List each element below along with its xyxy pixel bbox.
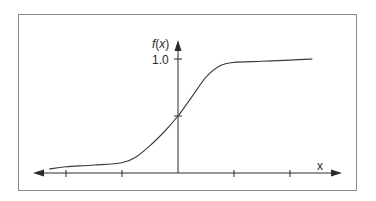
x-axis-right-arrow: [331, 170, 342, 177]
x-axis-label: x: [317, 159, 323, 173]
y-axis-label: f(x): [152, 37, 169, 51]
y-tick-label-1: 1.0: [152, 53, 169, 67]
sigmoid-curve: [49, 59, 312, 169]
x-axis-left-arrow: [33, 170, 44, 177]
sigmoid-figure: f(x) x 1.0: [0, 0, 376, 201]
y-axis-up-arrow: [175, 40, 182, 51]
